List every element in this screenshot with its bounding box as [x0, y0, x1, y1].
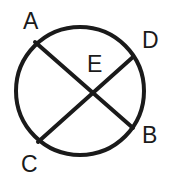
chord-ab-line — [35, 42, 133, 128]
vertex-label-b: B — [142, 124, 157, 147]
geometry-figure: A D E B C — [0, 0, 172, 190]
vertex-label-a: A — [23, 10, 38, 33]
vertex-label-d: D — [142, 29, 159, 52]
vertex-label-e: E — [87, 53, 102, 76]
circle-outline — [16, 27, 144, 155]
chord-cd-line — [38, 57, 133, 142]
vertex-label-c: C — [21, 153, 38, 176]
